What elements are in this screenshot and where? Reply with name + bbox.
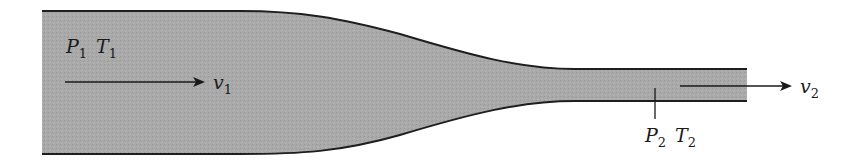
p1-subscript: 1 (79, 46, 87, 61)
v1-subscript: 1 (224, 82, 232, 97)
v2-symbol: v (800, 75, 811, 97)
svg-text:P2 T2: P2 T2 (644, 124, 696, 150)
outlet-state-label: P2 T2 (644, 124, 696, 150)
v2-subscript: 2 (811, 86, 819, 101)
p2-symbol: P (644, 124, 659, 146)
t1-subscript: 1 (109, 46, 117, 61)
v1-symbol: v (213, 71, 224, 93)
outlet-velocity-label: v2 (800, 75, 819, 101)
p2-subscript: 2 (658, 135, 666, 150)
nozzle-diagram: P1 T1 v1 P2 T2 v2 (0, 0, 851, 168)
t2-subscript: 2 (688, 135, 696, 150)
p1-symbol: P (65, 35, 80, 57)
